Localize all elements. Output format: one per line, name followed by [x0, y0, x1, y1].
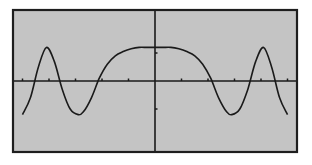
graph-plot: [0, 0, 312, 165]
calculator-graph-screen: [0, 0, 312, 165]
